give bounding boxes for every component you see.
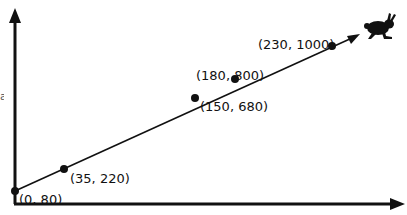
point-label-1: (35, 220) <box>70 172 130 185</box>
x-axis <box>14 198 405 210</box>
y-axis <box>9 8 21 204</box>
point-label-4: (230, 1000) <box>258 38 334 51</box>
data-point-2 <box>191 94 199 102</box>
rabbit-icon <box>364 13 396 39</box>
point-label-3: (180, 800) <box>196 69 264 82</box>
line-arrow-icon <box>347 34 360 44</box>
x-axis-arrow-icon <box>390 198 405 210</box>
point-label-2: (150, 680) <box>200 100 268 113</box>
y-axis-label-fragment: a <box>0 90 4 103</box>
data-point-0 <box>11 187 19 195</box>
y-axis-arrow-icon <box>9 8 21 23</box>
data-point-1 <box>60 165 68 173</box>
point-label-0: (0, 80) <box>19 193 62 206</box>
